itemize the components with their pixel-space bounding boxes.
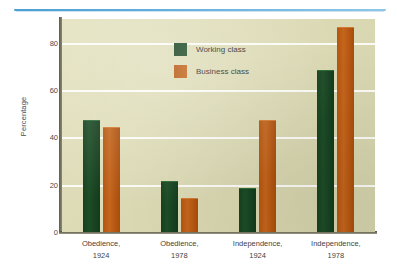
legend-swatch-working-class	[174, 43, 187, 56]
x-tick-label: Independence,1978	[311, 238, 361, 262]
bar-chart-figure: Percentage 020406080 Working class Busin…	[0, 0, 397, 277]
legend-item-working-class: Working class	[174, 43, 249, 56]
y-axis-tick-labels: 020406080	[28, 19, 58, 232]
y-tick-label-80: 80	[32, 38, 58, 47]
y-tick-label-0: 0	[32, 228, 58, 237]
x-tick-label: Obedience,1978	[160, 238, 198, 262]
x-tick-label: Obedience,1924	[82, 238, 120, 262]
y-tick-label-40: 40	[32, 133, 58, 142]
y-tick-label-60: 60	[32, 86, 58, 95]
legend-item-business-class: Business class	[174, 65, 249, 78]
legend-swatch-business-class	[174, 65, 187, 78]
chart-legend: Working class Business class	[174, 43, 249, 87]
bar-working-class[interactable]	[317, 70, 334, 232]
y-tick-label-20: 20	[32, 180, 58, 189]
plot-area: Working class Business class	[62, 19, 375, 232]
legend-label-working-class: Working class	[196, 45, 246, 54]
top-divider-rule-shadow	[16, 11, 384, 12]
bar-business-class[interactable]	[337, 27, 354, 232]
y-axis-title: Percentage	[19, 72, 28, 162]
legend-label-business-class: Business class	[196, 67, 249, 76]
x-tick-label: Independence,1924	[233, 238, 283, 262]
x-axis-tick-labels: Obedience,1924Obedience,1978Independence…	[62, 238, 375, 274]
